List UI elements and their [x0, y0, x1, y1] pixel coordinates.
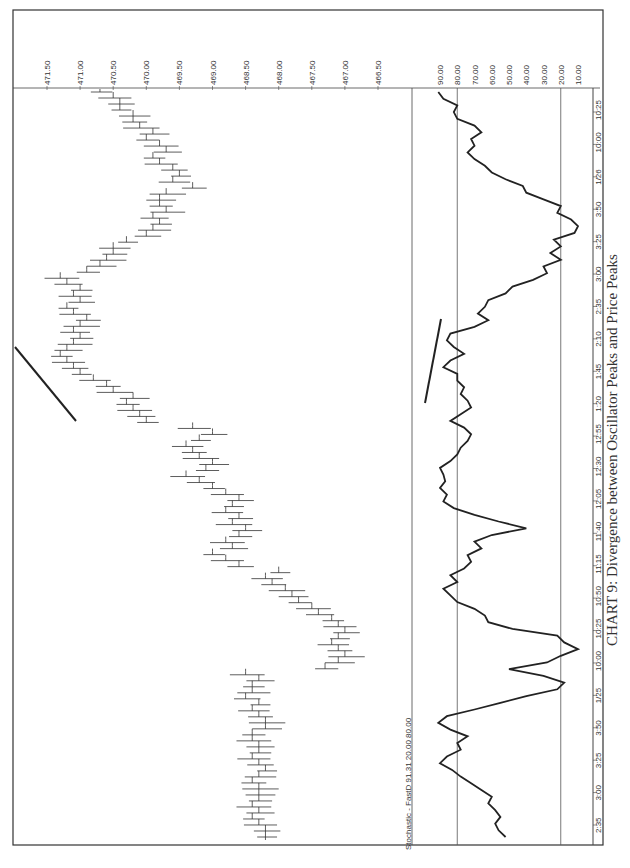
oscillator-axis-ticks: 90.0080.0070.0060.0050.0040.0030.0020.00…	[436, 64, 583, 85]
price-bar	[228, 516, 253, 522]
price-bar	[159, 179, 193, 185]
price-bar	[252, 726, 282, 732]
price-bar	[199, 462, 229, 468]
price-bar	[120, 395, 150, 401]
time-axis-ticks: 2:353:003:253:501/2510:0010:2510:5011:15…	[593, 99, 603, 833]
price-bar	[227, 498, 253, 504]
price-bar	[227, 564, 278, 570]
oscillator-peak-trendline	[425, 319, 441, 403]
price-bar	[248, 714, 273, 720]
price-bar	[166, 185, 207, 191]
price-bar	[145, 161, 178, 167]
price-bar	[246, 810, 274, 816]
price-tick-label: 468.00	[275, 60, 284, 85]
price-bar	[318, 642, 349, 648]
price-bar	[269, 588, 305, 594]
price-bar	[70, 335, 93, 341]
price-bar	[323, 624, 356, 630]
price-bar	[97, 389, 133, 395]
price-bar	[60, 269, 100, 275]
price-tick-label: 471.50	[43, 60, 52, 85]
oscillator-tick-label: 50.00	[505, 64, 514, 85]
price-bar	[254, 828, 280, 834]
price-bar	[153, 149, 182, 155]
oscillator-tick-label: 40.00	[522, 64, 531, 85]
price-bar	[212, 510, 243, 516]
price-bar	[76, 317, 101, 323]
time-tick-label: 10:00	[594, 132, 603, 153]
price-tick-label: 466.50	[374, 60, 383, 85]
price-bar	[113, 239, 138, 245]
price-bar	[123, 125, 159, 131]
price-bar	[328, 654, 364, 660]
price-bar	[71, 287, 93, 293]
price-bar	[244, 822, 277, 828]
price-bar	[102, 251, 127, 257]
price-bar	[203, 552, 225, 558]
time-tick-label: 12:55	[594, 424, 603, 445]
price-tick-label: 467.00	[341, 60, 350, 85]
oscillator-tick-label: 10.00	[574, 64, 583, 85]
price-bar	[238, 708, 269, 714]
price-bar	[245, 774, 276, 780]
price-bar	[251, 576, 282, 582]
price-bar	[257, 768, 277, 774]
price-bar	[306, 612, 334, 618]
price-bar	[51, 353, 73, 359]
price-bar	[257, 834, 277, 840]
price-bar	[161, 167, 187, 173]
price-bar	[211, 492, 244, 498]
time-tick-label: 10:00	[594, 650, 603, 671]
price-bar	[237, 756, 270, 762]
price-bar	[211, 558, 244, 564]
price-bar	[59, 305, 79, 311]
price-bar	[150, 203, 173, 209]
price-bar	[79, 377, 110, 383]
price-ohlc-bars	[45, 89, 365, 840]
time-tick-label: 10:25	[594, 99, 603, 120]
price-bar	[236, 738, 271, 744]
time-tick-label: 10:25	[594, 618, 603, 639]
price-bar	[234, 696, 260, 702]
price-bar	[210, 540, 245, 546]
oscillator-tick-label: 60.00	[488, 64, 497, 85]
price-bar	[246, 792, 276, 798]
price-bar	[242, 786, 278, 792]
price-bar	[224, 504, 244, 510]
price-bar	[243, 684, 265, 690]
price-bar	[54, 347, 82, 353]
price-bar	[261, 582, 286, 588]
price-bar	[187, 480, 215, 486]
price-bar	[203, 486, 225, 492]
price-bar	[72, 371, 94, 377]
price-bar	[178, 425, 213, 431]
price-bar	[52, 359, 85, 365]
price-bar	[146, 197, 176, 203]
price-bar	[265, 570, 290, 576]
oscillator-reference-lines	[457, 88, 561, 845]
price-bar	[91, 89, 113, 95]
price-bar	[136, 137, 159, 143]
price-bar	[60, 329, 90, 335]
oscillator-tick-label: 30.00	[540, 64, 549, 85]
oscillator-tick-label: 20.00	[557, 64, 566, 85]
price-bar	[226, 534, 252, 540]
price-bar	[99, 245, 130, 251]
price-bar	[170, 474, 205, 480]
price-bar	[127, 413, 155, 419]
price-bar	[333, 630, 359, 636]
price-bar	[250, 750, 272, 756]
price-bar	[171, 173, 191, 179]
price-bar	[230, 672, 265, 678]
price-tick-label: 468.50	[242, 60, 251, 85]
price-bar	[126, 233, 161, 239]
price-bar	[62, 365, 88, 371]
price-bar	[236, 804, 271, 810]
price-bar	[213, 546, 249, 552]
oscillator-tick-label: 80.00	[453, 64, 462, 85]
price-bar	[67, 299, 95, 305]
stochastic-legend-label: Stochastic - FastD 91.31 20.00 80.00	[404, 717, 413, 850]
time-tick-label: 12:05	[594, 488, 603, 509]
price-tick-label: 470.50	[109, 60, 118, 85]
price-bar	[122, 119, 147, 125]
